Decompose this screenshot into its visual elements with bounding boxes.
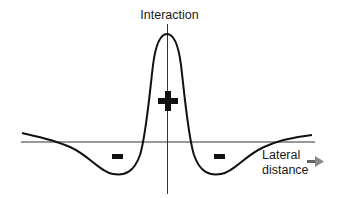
minus-sign-right-icon — [214, 154, 225, 159]
plus-sign-icon — [158, 91, 178, 111]
minus-sign-left-icon — [112, 154, 123, 159]
x-axis-label-line2: distance — [262, 163, 309, 178]
x-axis-label-line1: Lateral — [262, 148, 309, 163]
y-axis-label: Interaction — [0, 8, 337, 22]
x-axis-label: Lateral distance — [262, 148, 309, 178]
arrow-right-icon — [307, 156, 324, 167]
